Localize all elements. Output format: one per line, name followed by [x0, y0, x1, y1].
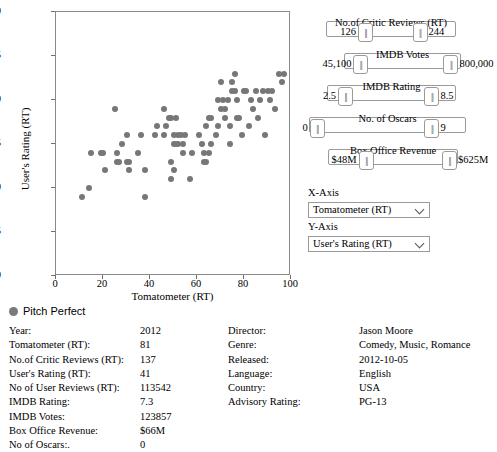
slider-min-value: 2.5 — [323, 89, 336, 102]
slider-handle-hi-handle[interactable]: || — [413, 23, 428, 42]
range-slider[interactable]: IMDB Votes45,100800,000|||| — [344, 46, 461, 76]
x-axis-selector-label: X-Axis — [308, 186, 430, 200]
data-point[interactable] — [135, 150, 141, 156]
data-point[interactable] — [222, 115, 228, 121]
chevron-down-icon — [416, 206, 424, 214]
detail-field-value: PG-13 — [359, 395, 386, 409]
slider-handle-hi-handle[interactable]: || — [442, 151, 457, 170]
data-point[interactable] — [199, 141, 205, 147]
data-point[interactable] — [203, 159, 209, 165]
data-point[interactable] — [163, 123, 169, 129]
data-point[interactable] — [168, 176, 174, 182]
plot-frame — [55, 11, 290, 275]
y-axis-tick-label: 4.5 — [0, 50, 1, 61]
x-axis-tick-label: 40 — [144, 279, 155, 290]
data-point[interactable] — [208, 115, 214, 121]
data-point[interactable] — [272, 106, 278, 112]
range-slider[interactable]: Box Office Revenue$48M$625M|||| — [328, 142, 458, 172]
data-point[interactable] — [227, 123, 233, 129]
data-point[interactable] — [171, 167, 177, 173]
data-point[interactable] — [222, 106, 228, 112]
data-point[interactable] — [279, 79, 285, 85]
range-slider[interactable]: No.of Critic Reviews (RT)126244|||| — [326, 14, 456, 44]
data-point[interactable] — [215, 123, 221, 129]
data-point[interactable] — [180, 150, 186, 156]
x-axis-select[interactable]: Tomatometer (RT) — [308, 202, 430, 218]
data-point[interactable] — [196, 132, 202, 138]
data-point[interactable] — [168, 159, 174, 165]
detail-field-value: 81 — [140, 338, 151, 352]
slider-max-value: 8.5 — [440, 89, 453, 102]
data-point[interactable] — [206, 150, 212, 156]
slider-handle-lo-handle[interactable]: || — [359, 151, 374, 170]
y-axis-select[interactable]: User's Rating (RT) — [308, 236, 430, 252]
slider-handle-lo-handle[interactable]: || — [353, 55, 368, 74]
data-point[interactable] — [225, 97, 231, 103]
detail-field-value: English — [359, 367, 391, 381]
x-axis-tick-label: 60 — [191, 279, 202, 290]
data-point[interactable] — [180, 141, 186, 147]
data-point[interactable] — [246, 123, 252, 129]
data-point[interactable] — [88, 150, 94, 156]
data-point[interactable] — [116, 159, 122, 165]
data-point[interactable] — [142, 194, 148, 200]
data-point[interactable] — [255, 115, 261, 121]
data-point[interactable] — [126, 167, 132, 173]
slider-handle-hi-handle[interactable]: || — [424, 87, 439, 106]
data-point[interactable] — [262, 132, 268, 138]
data-point[interactable] — [126, 159, 132, 165]
detail-column-left: Year:2012Tomatometer (RT):81No.of Critic… — [9, 324, 239, 452]
data-point[interactable] — [102, 167, 108, 173]
data-point[interactable] — [173, 115, 179, 121]
data-point[interactable] — [142, 167, 148, 173]
data-point[interactable] — [182, 132, 188, 138]
range-slider[interactable]: IMDB Rating2.58.5|||| — [327, 78, 456, 108]
data-point[interactable] — [257, 97, 263, 103]
data-point[interactable] — [239, 132, 245, 138]
detail-row: IMDB Votes:123857 — [9, 410, 239, 424]
data-point[interactable] — [218, 79, 224, 85]
data-point[interactable] — [124, 132, 130, 138]
data-point[interactable] — [250, 106, 256, 112]
data-point[interactable] — [243, 88, 249, 94]
data-point[interactable] — [229, 79, 235, 85]
detail-row: Country:USA — [228, 381, 493, 395]
data-point[interactable] — [100, 150, 106, 156]
range-slider[interactable]: No. of Oscars09|||| — [309, 110, 466, 140]
data-point[interactable] — [79, 194, 85, 200]
data-point[interactable] — [138, 132, 144, 138]
y-axis-tick-mark — [51, 231, 55, 232]
data-point[interactable] — [161, 132, 167, 138]
data-point[interactable] — [234, 97, 240, 103]
data-point[interactable] — [152, 132, 158, 138]
data-point[interactable] — [114, 150, 120, 156]
data-point[interactable] — [281, 71, 287, 77]
data-point[interactable] — [232, 88, 238, 94]
slider-handle-lo-handle[interactable]: || — [358, 23, 373, 42]
y-axis-tick-label: 2.5 — [0, 226, 1, 237]
data-point[interactable] — [248, 97, 254, 103]
data-point[interactable] — [232, 71, 238, 77]
data-point[interactable] — [203, 123, 209, 129]
data-point[interactable] — [236, 115, 242, 121]
data-point[interactable] — [187, 176, 193, 182]
data-point[interactable] — [119, 141, 125, 147]
scatter-plot: 2.02.53.03.54.04.55.0 020406080100 User'… — [0, 0, 300, 300]
slider-handle-lo-handle[interactable]: || — [338, 87, 353, 106]
data-point[interactable] — [269, 88, 275, 94]
data-point[interactable] — [208, 141, 214, 147]
data-point[interactable] — [227, 141, 233, 147]
data-point[interactable] — [112, 106, 118, 112]
slider-handle-hi-handle[interactable]: || — [443, 55, 458, 74]
slider-min-value: 0 — [303, 121, 308, 134]
slider-handle-lo-handle[interactable]: || — [310, 119, 325, 138]
detail-field-value: 113542 — [140, 381, 171, 395]
data-point[interactable] — [267, 97, 273, 103]
data-point[interactable] — [189, 150, 195, 156]
data-point[interactable] — [161, 106, 167, 112]
data-point[interactable] — [154, 123, 160, 129]
data-point[interactable] — [86, 185, 92, 191]
slider-handle-hi-handle[interactable]: || — [424, 119, 439, 138]
data-point[interactable] — [213, 132, 219, 138]
data-point[interactable] — [253, 88, 259, 94]
